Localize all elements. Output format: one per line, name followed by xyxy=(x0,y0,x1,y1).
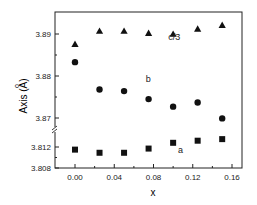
svg-text:3.87: 3.87 xyxy=(35,114,51,123)
triangle-marker-c/3 xyxy=(194,25,201,31)
square-marker-a xyxy=(97,150,103,156)
svg-text:0.04: 0.04 xyxy=(106,173,122,182)
triangle-marker-c/3 xyxy=(120,27,127,33)
svg-text:3.88: 3.88 xyxy=(35,72,51,81)
svg-text:0.16: 0.16 xyxy=(224,173,240,182)
series-label: b xyxy=(146,74,151,84)
square-marker-a xyxy=(170,140,176,146)
scatter-chart: 3.873.883.893.8083.812 0.000.040.080.120… xyxy=(0,0,257,205)
series-label: a xyxy=(178,145,183,155)
square-marker-a xyxy=(146,146,152,152)
svg-text:3.89: 3.89 xyxy=(35,30,51,39)
svg-text:3.812: 3.812 xyxy=(31,143,52,152)
triangle-marker-c/3 xyxy=(96,27,103,33)
circle-marker-b xyxy=(170,103,176,109)
svg-text:o: o xyxy=(13,84,20,88)
y-axis-label: Axis (A) o xyxy=(13,78,29,113)
square-marker-a xyxy=(195,138,201,144)
svg-text:0.08: 0.08 xyxy=(146,173,162,182)
square-marker-a xyxy=(72,147,78,153)
svg-text:3.808: 3.808 xyxy=(31,164,52,173)
circle-marker-b xyxy=(194,99,200,105)
circle-marker-b xyxy=(72,59,78,65)
series-annotations: c/3ba xyxy=(146,32,183,155)
triangle-marker-c/3 xyxy=(145,30,152,36)
svg-text:Axis (A): Axis (A) xyxy=(18,78,29,113)
square-marker-a xyxy=(219,136,225,142)
data-markers xyxy=(71,22,225,156)
series-label: c/3 xyxy=(168,32,180,42)
circle-marker-b xyxy=(219,115,225,121)
triangle-marker-c/3 xyxy=(71,40,78,46)
circle-marker-b xyxy=(145,96,151,102)
x-axis-ticks: 0.000.040.080.120.16 xyxy=(67,164,240,182)
circle-marker-b xyxy=(96,86,102,92)
circle-marker-b xyxy=(121,88,127,94)
x-axis-label: x xyxy=(151,187,156,198)
svg-text:0.00: 0.00 xyxy=(67,173,83,182)
square-marker-a xyxy=(121,150,127,156)
svg-text:0.12: 0.12 xyxy=(185,173,201,182)
triangle-marker-c/3 xyxy=(219,22,226,28)
